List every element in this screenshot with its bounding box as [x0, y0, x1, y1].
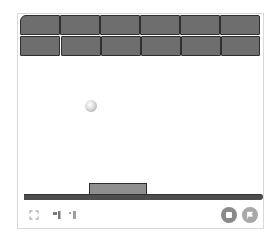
small-stage-icon — [52, 210, 62, 220]
small-stage-button[interactable] — [52, 210, 62, 220]
green-flag-button[interactable] — [242, 207, 258, 223]
brick — [61, 36, 101, 56]
brick — [181, 36, 221, 56]
brick — [60, 15, 100, 35]
fullscreen-button[interactable] — [29, 210, 39, 220]
flag-icon — [246, 211, 254, 219]
ball — [85, 100, 97, 112]
brick — [100, 15, 140, 35]
normal-stage-icon — [68, 210, 78, 220]
stage-controls — [18, 202, 263, 229]
brick — [141, 36, 181, 56]
brick — [20, 15, 60, 35]
stop-icon — [225, 211, 233, 219]
normal-stage-button[interactable] — [68, 210, 78, 220]
brick — [180, 15, 220, 35]
stop-button[interactable] — [221, 207, 237, 223]
game-stage[interactable] — [18, 14, 263, 202]
brick — [20, 36, 60, 56]
game-frame — [17, 13, 264, 229]
brick — [221, 36, 260, 56]
fullscreen-icon — [29, 210, 39, 220]
floor-bar — [24, 194, 263, 200]
brick — [140, 15, 180, 35]
brick — [101, 36, 141, 56]
brick — [220, 15, 260, 35]
